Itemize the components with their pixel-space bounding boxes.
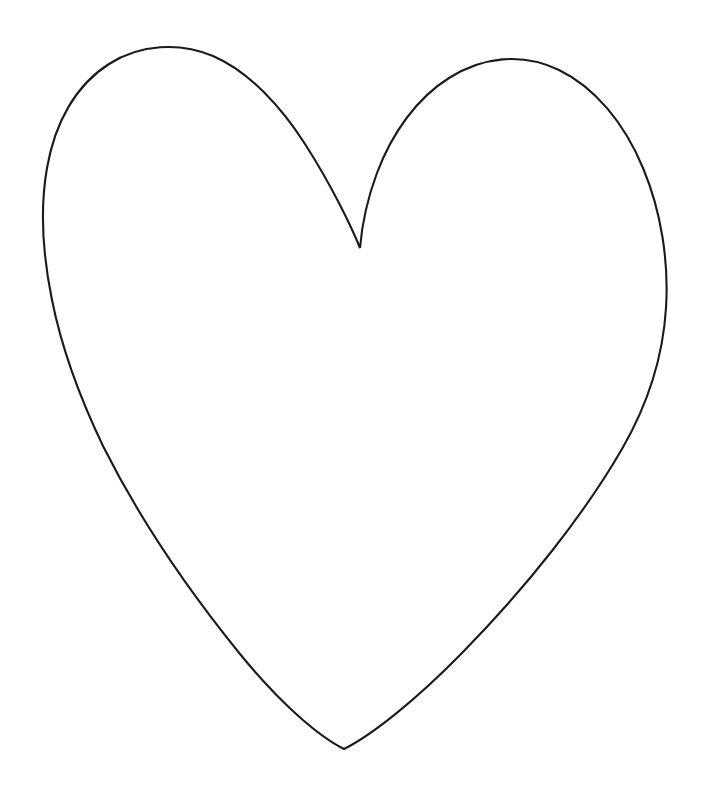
drawing-canvas: Heart Outline: [0, 0, 713, 794]
background-plate: [0, 0, 713, 794]
heart-outline-svg: Heart Outline: [0, 0, 713, 794]
